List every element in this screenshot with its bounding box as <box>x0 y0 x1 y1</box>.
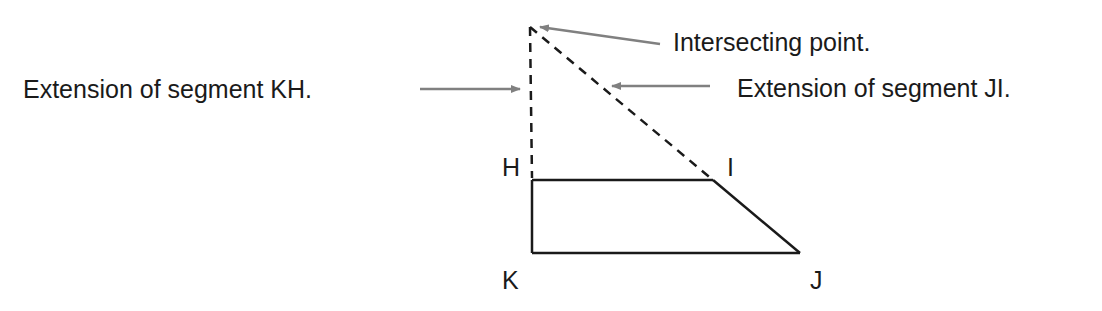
vertex-label-i: I <box>727 155 734 180</box>
segment-ij <box>713 180 800 253</box>
label-intersecting-point: Intersecting point. <box>673 30 870 55</box>
extension-kh-line <box>530 27 532 178</box>
trapezoid-diagram <box>0 0 1102 311</box>
trapezoid-shape <box>532 180 800 253</box>
vertex-label-k: K <box>502 268 519 293</box>
vertex-label-j: J <box>810 268 823 293</box>
label-extension-ji: Extension of segment JI. <box>737 76 1011 101</box>
arrow-intersecting-point <box>540 27 660 44</box>
vertex-label-h: H <box>502 155 520 180</box>
label-extension-kh: Extension of segment KH. <box>23 77 312 102</box>
